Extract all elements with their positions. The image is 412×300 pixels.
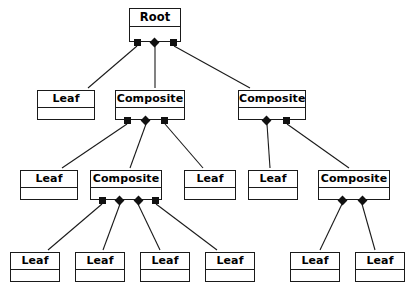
uml-node-label: Composite bbox=[116, 91, 184, 108]
uml-node-attributes-compartment bbox=[185, 188, 235, 199]
composite-pattern-diagram: RootLeafCompositeCompositeLeafCompositeL… bbox=[0, 0, 412, 300]
uml-node-label: Composite bbox=[319, 171, 389, 188]
aggregation-square-icon bbox=[99, 197, 106, 204]
uml-node-c3a[interactable]: Composite bbox=[90, 170, 162, 200]
uml-node-label: Leaf bbox=[291, 253, 339, 270]
uml-node-c2a[interactable]: Composite bbox=[115, 90, 185, 120]
uml-node-root[interactable]: Root bbox=[129, 8, 181, 42]
aggregation-square-icon bbox=[283, 117, 290, 124]
uml-node-c3b[interactable]: Composite bbox=[318, 170, 390, 200]
uml-node-l4c[interactable]: Leaf bbox=[140, 252, 190, 282]
uml-node-attributes-compartment bbox=[239, 108, 305, 119]
uml-node-l4f[interactable]: Leaf bbox=[355, 252, 405, 282]
aggregation-square-icon bbox=[170, 39, 177, 46]
uml-node-label: Leaf bbox=[76, 253, 124, 270]
uml-node-l3a[interactable]: Leaf bbox=[20, 170, 78, 200]
uml-node-label: Leaf bbox=[38, 91, 94, 108]
uml-node-label: Root bbox=[130, 9, 180, 27]
aggregation-square-icon bbox=[152, 197, 159, 204]
aggregation-square-icon bbox=[124, 117, 131, 124]
uml-node-label: Leaf bbox=[11, 253, 59, 270]
uml-node-l4d[interactable]: Leaf bbox=[205, 252, 255, 282]
uml-node-label: Leaf bbox=[185, 171, 235, 188]
uml-node-attributes-compartment bbox=[38, 108, 94, 119]
uml-node-attributes-compartment bbox=[356, 270, 404, 281]
uml-node-attributes-compartment bbox=[141, 270, 189, 281]
uml-node-attributes-compartment bbox=[76, 270, 124, 281]
uml-node-label: Composite bbox=[239, 91, 305, 108]
uml-node-l4b[interactable]: Leaf bbox=[75, 252, 125, 282]
uml-node-attributes-compartment bbox=[291, 270, 339, 281]
uml-node-label: Leaf bbox=[21, 171, 77, 188]
uml-node-l4e[interactable]: Leaf bbox=[290, 252, 340, 282]
node-layer: RootLeafCompositeCompositeLeafCompositeL… bbox=[0, 0, 412, 300]
uml-node-attributes-compartment bbox=[206, 270, 254, 281]
uml-node-l2a[interactable]: Leaf bbox=[37, 90, 95, 120]
aggregation-square-icon bbox=[161, 117, 168, 124]
uml-node-attributes-compartment bbox=[11, 270, 59, 281]
uml-node-l4a[interactable]: Leaf bbox=[10, 252, 60, 282]
uml-node-label: Composite bbox=[91, 171, 161, 188]
uml-node-attributes-compartment bbox=[249, 188, 297, 199]
uml-node-label: Leaf bbox=[141, 253, 189, 270]
uml-node-label: Leaf bbox=[356, 253, 404, 270]
uml-node-label: Leaf bbox=[206, 253, 254, 270]
uml-node-l3b[interactable]: Leaf bbox=[184, 170, 236, 200]
uml-node-label: Leaf bbox=[249, 171, 297, 188]
uml-node-c2b[interactable]: Composite bbox=[238, 90, 306, 120]
aggregation-square-icon bbox=[134, 39, 141, 46]
uml-node-attributes-compartment bbox=[21, 188, 77, 199]
uml-node-attributes-compartment bbox=[319, 188, 389, 199]
uml-node-l3c[interactable]: Leaf bbox=[248, 170, 298, 200]
